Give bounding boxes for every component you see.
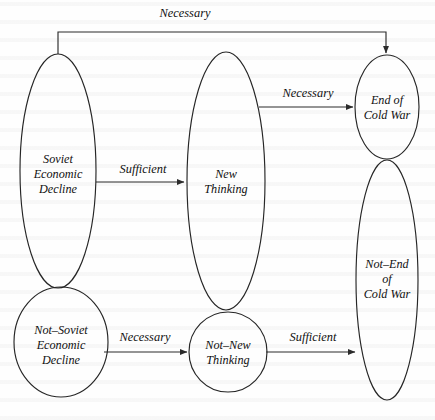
node-label-not-new-thinking-line1: Not–New <box>204 338 251 352</box>
node-label-not-end-of-cold-war-line1: Not–End <box>364 257 409 271</box>
node-label-not-soviet-economic-decline-line2: Economic <box>36 338 86 352</box>
node-label-not-end-of-cold-war-line3: Cold War <box>364 287 411 301</box>
edge-line-necessary-top <box>58 32 386 54</box>
diagram-page: Necessary Sufficient Necessary Necessary… <box>0 0 435 420</box>
edge-label-necessary-top: Necessary <box>159 6 211 20</box>
node-not-soviet-economic-decline[interactable]: Not–Soviet Economic Decline <box>14 287 108 397</box>
node-label-new-thinking-line1: New <box>214 167 238 181</box>
node-label-soviet-economic-decline-line2: Economic <box>33 167 83 181</box>
node-new-thinking[interactable]: New Thinking <box>187 52 265 310</box>
edge-soviet-decline-to-end-of-cold-war: Necessary <box>58 6 386 54</box>
edge-label-sufficient-bottom: Sufficient <box>290 330 337 344</box>
node-end-of-cold-war[interactable]: End of Cold War <box>355 55 419 159</box>
node-label-not-new-thinking-line2: Thinking <box>206 353 249 367</box>
node-label-soviet-economic-decline-line3: Decline <box>38 182 77 196</box>
node-label-new-thinking-line2: Thinking <box>204 182 247 196</box>
edge-new-thinking-to-end-of-cold-war: Necessary <box>259 86 353 107</box>
edge-label-necessary-bottom: Necessary <box>119 330 171 344</box>
node-label-not-soviet-economic-decline-line1: Not–Soviet <box>33 323 88 337</box>
edge-not-soviet-decline-to-not-new-thinking: Necessary <box>104 330 187 352</box>
node-not-end-of-cold-war[interactable]: Not–End of Cold War <box>356 160 418 400</box>
node-label-end-of-cold-war-line2: Cold War <box>364 108 411 122</box>
node-label-soviet-economic-decline-line1: Soviet <box>43 152 73 166</box>
node-soviet-economic-decline[interactable]: Soviet Economic Decline <box>20 54 96 288</box>
edge-label-sufficient-upper: Sufficient <box>120 162 167 176</box>
node-label-not-soviet-economic-decline-line3: Decline <box>41 353 80 367</box>
causal-diagram: Necessary Sufficient Necessary Necessary… <box>0 0 435 420</box>
edge-soviet-decline-to-new-thinking: Sufficient <box>96 162 184 182</box>
node-label-end-of-cold-war-line1: End of <box>370 93 405 107</box>
node-label-not-end-of-cold-war-line2: of <box>382 272 393 286</box>
edge-label-necessary-middle: Necessary <box>282 86 334 100</box>
edge-not-new-thinking-to-not-end-of-cold-war: Sufficient <box>266 330 355 352</box>
node-not-new-thinking[interactable]: Not–New Thinking <box>189 312 267 392</box>
